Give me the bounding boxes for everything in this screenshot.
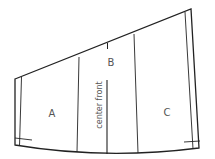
label-b: B bbox=[108, 57, 115, 68]
left-seam-line bbox=[20, 77, 22, 146]
label-a: A bbox=[49, 108, 56, 119]
pattern-diagram: A B C center front bbox=[0, 0, 215, 159]
division-line-a-b bbox=[77, 57, 79, 152]
label-center-front: center front bbox=[95, 81, 104, 128]
right-hem-mark bbox=[184, 141, 200, 142]
division-line-b-c bbox=[134, 34, 138, 153]
label-c: C bbox=[164, 107, 171, 118]
left-hem-mark bbox=[15, 138, 32, 140]
